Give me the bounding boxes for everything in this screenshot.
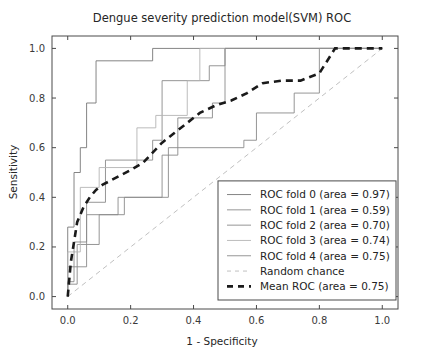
x-tick-label: 0.6	[249, 315, 265, 326]
x-tick-label: 1.0	[374, 315, 390, 326]
x-tick-label: 0.4	[186, 315, 202, 326]
chart-title: Dengue severity prediction model(SVM) RO…	[93, 11, 351, 25]
legend-label-6: Mean ROC (area = 0.75)	[260, 280, 389, 292]
x-axis-label: 1 - Specificity	[186, 335, 257, 347]
legend-label-2: ROC fold 2 (area = 0.70)	[260, 219, 390, 231]
y-tick-label: 0.4	[29, 192, 45, 203]
legend-label-4: ROC fold 4 (area = 0.75)	[260, 250, 390, 262]
legend-label-3: ROC fold 3 (area = 0.74)	[260, 234, 390, 246]
roc-plot-svg: 0.00.20.40.60.81.00.00.20.40.60.81.0 ROC…	[0, 0, 425, 356]
x-tick-label: 0.8	[311, 315, 327, 326]
y-tick-label: 0.8	[29, 93, 45, 104]
legend-label-1: ROC fold 1 (area = 0.59)	[260, 204, 390, 216]
y-tick-label: 1.0	[29, 43, 45, 54]
y-tick-label: 0.0	[29, 291, 45, 302]
x-tick-label: 0.0	[60, 315, 76, 326]
legend-label-5: Random chance	[260, 265, 345, 277]
roc-chart-figure: 0.00.20.40.60.81.00.00.20.40.60.81.0 ROC…	[0, 0, 425, 356]
y-tick-label: 0.6	[29, 142, 45, 153]
y-axis-label: Sensitivity	[7, 145, 19, 200]
x-tick-label: 0.2	[123, 315, 139, 326]
legend-label-0: ROC fold 0 (area = 0.97)	[260, 188, 390, 200]
y-tick-label: 0.2	[29, 241, 45, 252]
legend-layer: ROC fold 0 (area = 0.97)ROC fold 1 (area…	[218, 181, 396, 300]
